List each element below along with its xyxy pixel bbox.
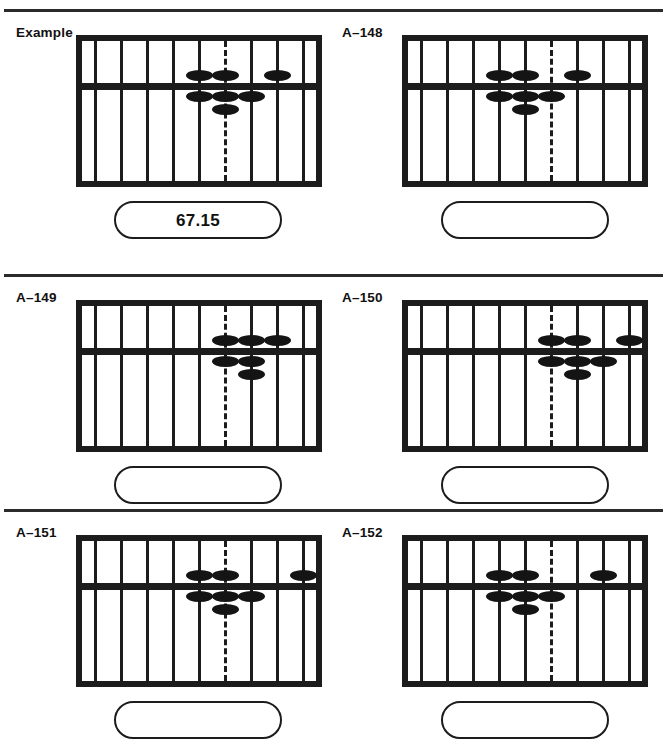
upper-bead[interactable] bbox=[512, 570, 539, 581]
lower-bead[interactable] bbox=[186, 91, 213, 102]
soroban-rod bbox=[602, 306, 605, 446]
soroban-abacus[interactable] bbox=[76, 300, 322, 452]
lower-bead[interactable] bbox=[212, 604, 239, 615]
problem-panel-1: A–148 bbox=[334, 13, 667, 248]
soroban-crossbar bbox=[408, 83, 642, 90]
soroban-rod bbox=[446, 541, 449, 681]
answer-box[interactable]: 67.15 bbox=[114, 201, 282, 239]
upper-bead[interactable] bbox=[264, 335, 291, 346]
upper-bead[interactable] bbox=[264, 70, 291, 81]
problem-label: A–148 bbox=[342, 25, 383, 40]
soroban-rod bbox=[576, 41, 579, 181]
lower-bead[interactable] bbox=[486, 91, 513, 102]
upper-bead[interactable] bbox=[486, 570, 513, 581]
answer-value: 67.15 bbox=[176, 212, 220, 229]
worksheet-page: Example 67.15 A–148 bbox=[0, 0, 667, 742]
soroban-rod bbox=[276, 541, 279, 681]
soroban-inner bbox=[408, 41, 642, 181]
lower-bead[interactable] bbox=[238, 356, 265, 367]
soroban-rod bbox=[146, 541, 149, 681]
lower-bead[interactable] bbox=[512, 591, 539, 602]
upper-bead[interactable] bbox=[212, 335, 239, 346]
answer-box[interactable] bbox=[441, 201, 609, 239]
soroban-rod bbox=[120, 541, 123, 681]
soroban-rod bbox=[120, 41, 123, 181]
lower-bead[interactable] bbox=[512, 604, 539, 615]
lower-bead[interactable] bbox=[538, 91, 565, 102]
problem-panel-0: Example 67.15 bbox=[0, 13, 333, 248]
soroban-rod bbox=[576, 541, 579, 681]
upper-bead[interactable] bbox=[212, 70, 239, 81]
lower-bead[interactable] bbox=[238, 591, 265, 602]
lower-bead[interactable] bbox=[186, 591, 213, 602]
lower-bead[interactable] bbox=[212, 591, 239, 602]
soroban-abacus[interactable] bbox=[402, 300, 648, 452]
lower-bead[interactable] bbox=[590, 356, 617, 367]
answer-box[interactable] bbox=[441, 466, 609, 504]
lower-bead[interactable] bbox=[238, 369, 265, 380]
answer-box[interactable] bbox=[441, 701, 609, 739]
lower-bead[interactable] bbox=[564, 369, 591, 380]
problem-label: A–150 bbox=[342, 290, 383, 305]
upper-bead[interactable] bbox=[238, 335, 265, 346]
lower-bead[interactable] bbox=[564, 356, 591, 367]
problem-label: A–152 bbox=[342, 525, 383, 540]
upper-bead[interactable] bbox=[512, 70, 539, 81]
lower-bead[interactable] bbox=[212, 91, 239, 102]
upper-bead[interactable] bbox=[290, 570, 317, 581]
soroban-rod bbox=[172, 306, 175, 446]
soroban-inner bbox=[82, 41, 316, 181]
answer-box[interactable] bbox=[114, 701, 282, 739]
soroban-rod bbox=[146, 306, 149, 446]
lower-bead[interactable] bbox=[212, 356, 239, 367]
problem-panel-3: A–150 bbox=[334, 278, 667, 513]
decimal-marker-rod bbox=[550, 541, 553, 681]
soroban-rod bbox=[420, 541, 423, 681]
upper-bead[interactable] bbox=[616, 335, 643, 346]
lower-bead[interactable] bbox=[538, 356, 565, 367]
upper-bead[interactable] bbox=[590, 570, 617, 581]
answer-box[interactable] bbox=[114, 466, 282, 504]
soroban-rod bbox=[302, 306, 305, 446]
soroban-rod bbox=[472, 306, 475, 446]
upper-bead[interactable] bbox=[486, 70, 513, 81]
soroban-rod bbox=[302, 41, 305, 181]
soroban-rod bbox=[498, 306, 501, 446]
soroban-rod bbox=[628, 541, 631, 681]
soroban-rod bbox=[250, 41, 253, 181]
soroban-rod bbox=[472, 41, 475, 181]
upper-bead[interactable] bbox=[564, 70, 591, 81]
lower-bead[interactable] bbox=[512, 91, 539, 102]
upper-bead[interactable] bbox=[564, 335, 591, 346]
soroban-inner bbox=[408, 541, 642, 681]
upper-bead[interactable] bbox=[538, 335, 565, 346]
decimal-marker-rod bbox=[550, 306, 553, 446]
soroban-rod bbox=[524, 306, 527, 446]
soroban-inner bbox=[82, 306, 316, 446]
soroban-rod bbox=[198, 541, 201, 681]
upper-bead[interactable] bbox=[212, 570, 239, 581]
soroban-rod bbox=[120, 306, 123, 446]
soroban-rod bbox=[172, 541, 175, 681]
soroban-inner bbox=[82, 541, 316, 681]
decimal-marker-rod bbox=[550, 41, 553, 181]
soroban-abacus[interactable] bbox=[402, 35, 648, 187]
lower-bead[interactable] bbox=[538, 591, 565, 602]
soroban-abacus[interactable] bbox=[402, 535, 648, 687]
soroban-crossbar bbox=[82, 348, 316, 355]
soroban-abacus[interactable] bbox=[76, 35, 322, 187]
lower-bead[interactable] bbox=[486, 591, 513, 602]
problem-panel-2: A–149 bbox=[0, 278, 333, 513]
soroban-rod bbox=[250, 541, 253, 681]
lower-bead[interactable] bbox=[212, 104, 239, 115]
problem-row-1: Example 67.15 A–148 bbox=[0, 13, 667, 248]
soroban-abacus[interactable] bbox=[76, 535, 322, 687]
upper-bead[interactable] bbox=[186, 70, 213, 81]
separator-rule-middle-1 bbox=[4, 274, 663, 277]
soroban-rod bbox=[302, 541, 305, 681]
lower-bead[interactable] bbox=[238, 91, 265, 102]
separator-rule-top bbox=[4, 9, 663, 12]
soroban-crossbar bbox=[408, 583, 642, 590]
upper-bead[interactable] bbox=[186, 570, 213, 581]
lower-bead[interactable] bbox=[512, 104, 539, 115]
